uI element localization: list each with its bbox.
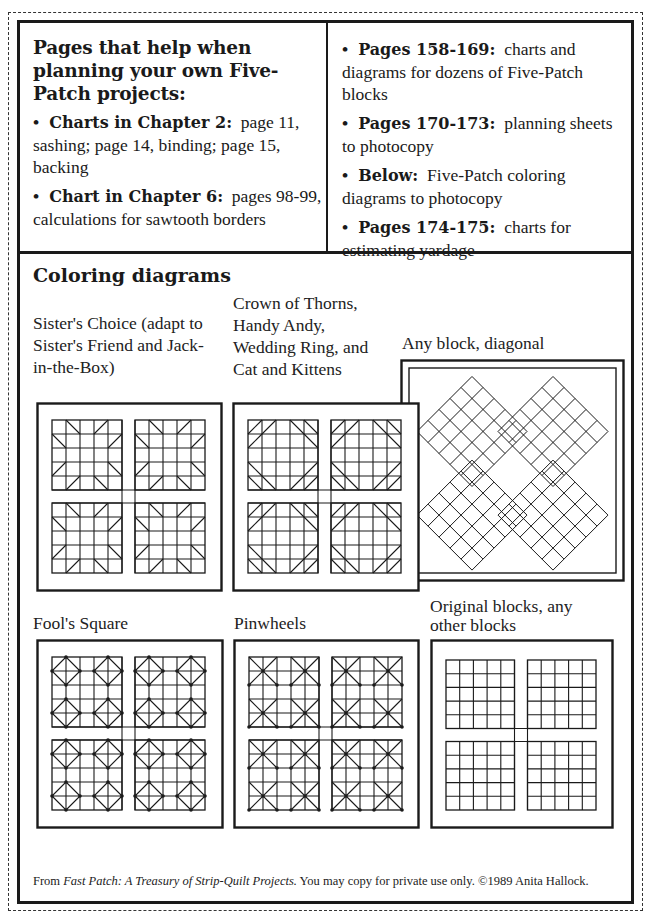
bullet-title: Pages 174-175: [358, 218, 495, 237]
bullet-item: •Charts in Chapter 2: page 11, sashing; … [33, 111, 323, 178]
bullet-icon: • [342, 217, 348, 237]
bullet-title: Pages 158-169: [358, 40, 495, 59]
planning-heading: Pages that help when planning your own F… [33, 36, 323, 105]
bullet-item: •Chart in Chapter 6: pages 98-99, calcul… [33, 185, 323, 230]
reference-pages-panel: •Pages 158-169: charts and diagrams for … [342, 38, 627, 268]
bullet-icon: • [342, 39, 348, 59]
bullet-title: Chart in Chapter 6: [49, 187, 223, 206]
sisters-choice-diagram [36, 402, 223, 592]
original-blocks-diagram [430, 639, 614, 829]
footer-prefix: From [33, 874, 60, 888]
diagram-label-pinwheels: Pinwheels [234, 612, 414, 634]
bullet-title: Pages 170-173: [358, 114, 495, 133]
bullet-item: •Pages 170-173: planning sheets to photo… [342, 112, 627, 157]
bullet-icon: • [33, 186, 39, 206]
any-block-diagonal-diagram [400, 359, 625, 582]
planning-pages-panel: Pages that help when planning your own F… [33, 36, 323, 237]
bullet-item: •Pages 174-175: charts for estimating ya… [342, 216, 627, 261]
bullet-title: Charts in Chapter 2: [49, 113, 232, 132]
book-title: Fast Patch: A Treasury of Strip-Quilt Pr… [63, 874, 297, 888]
bullet-icon: • [33, 112, 39, 132]
column-divider [326, 20, 328, 253]
crown-of-thorns-diagram [232, 402, 420, 592]
diagram-label-sisters-choice: Sister's Choice (adapt to Sister's Frien… [33, 312, 208, 378]
fools-square-diagram [36, 639, 224, 829]
bullet-item: •Below: Five-Patch coloring diagrams to … [342, 164, 627, 209]
bullet-item: •Pages 158-169: charts and diagrams for … [342, 38, 627, 105]
bullet-icon: • [342, 113, 348, 133]
coloring-diagrams-title: Coloring diagrams [33, 264, 231, 286]
bullet-icon: • [342, 165, 348, 185]
bullet-title: Below: [358, 166, 418, 185]
diagram-label-crown-of-thorns: Crown of Thorns, Handy Andy, Wedding Rin… [233, 292, 373, 380]
diagram-label-fools-square: Fool's Square [33, 612, 213, 634]
diagram-label-any-block-diagonal: Any block, diagonal [402, 332, 622, 354]
diagram-label-original-blocks: Original blocks, any other blocks [430, 597, 610, 635]
pinwheels-diagram [233, 639, 420, 829]
copyright-footer: From Fast Patch: A Treasury of Strip-Qui… [33, 874, 589, 889]
footer-notice: You may copy for private use only. ©1989… [300, 874, 589, 888]
